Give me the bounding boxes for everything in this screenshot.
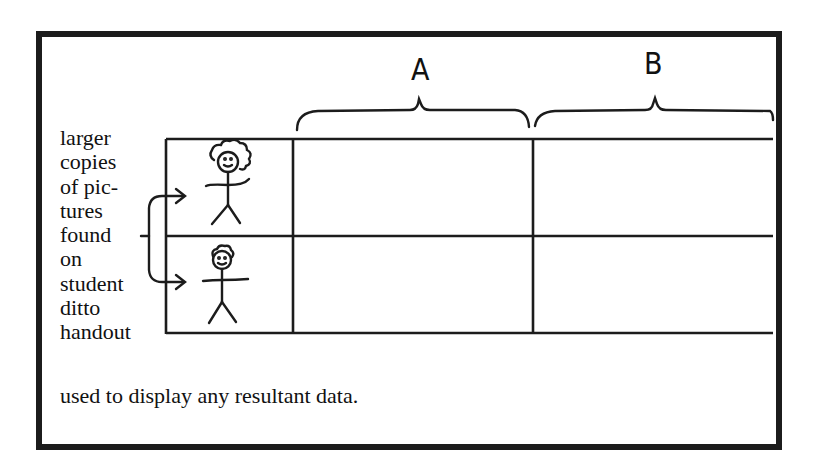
stick-figure-short-hair-icon (203, 245, 248, 323)
annotation-line: on (60, 247, 160, 271)
column-header-a: A (411, 52, 429, 87)
brace-column-b (535, 98, 773, 126)
column-header-b: B (644, 46, 663, 81)
data-grid (166, 138, 773, 334)
annotation-line: ditto (60, 296, 160, 320)
stick-figure-curly-hair-icon (206, 140, 251, 224)
annotation-line: copies (60, 150, 160, 174)
annotation-line: found (60, 223, 160, 247)
annotation-line: handout (60, 320, 160, 344)
annotation-line: of pic- (60, 175, 160, 199)
footer-annotation: used to display any resultant data. (60, 384, 358, 408)
annotation-line: tures (60, 199, 160, 223)
annotation-line: student (60, 272, 160, 296)
annotation-line: larger (60, 126, 160, 150)
side-annotation: larger copies of pic- tures found on stu… (60, 126, 160, 345)
brace-column-a (297, 99, 529, 130)
